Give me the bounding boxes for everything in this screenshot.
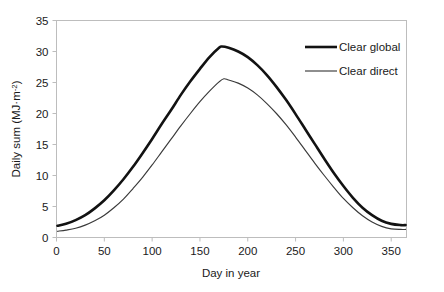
plot-frame [57, 21, 407, 238]
svg-text:Day in year: Day in year [202, 267, 260, 279]
x-tick-label: 350 [382, 245, 401, 257]
x-tick-label: 250 [286, 245, 305, 257]
series-line-clear-direct [57, 79, 405, 232]
y-tick-label: 35 [36, 15, 49, 27]
x-axis-tick-labels: 050100150200250300350 [53, 245, 400, 257]
x-tick-label: 300 [334, 245, 353, 257]
y-axis-title: Daily sum (MJ·m-2) [10, 80, 23, 177]
y-axis-tickmarks [53, 21, 57, 238]
y-tick-label: 25 [36, 77, 49, 89]
x-axis-title: Day in year [202, 267, 260, 279]
x-tick-label: 150 [190, 245, 209, 257]
y-tick-label: 15 [36, 139, 49, 151]
y-tick-label: 20 [36, 108, 49, 120]
x-tick-label: 100 [143, 245, 162, 257]
svg-text:Daily sum (MJ·m-2): Daily sum (MJ·m-2) [10, 80, 23, 177]
y-tick-label: 5 [42, 201, 48, 213]
y-tick-label: 0 [42, 232, 48, 244]
x-axis-tickmarks [57, 238, 392, 242]
x-tick-label: 200 [238, 245, 257, 257]
x-tick-label: 50 [98, 245, 111, 257]
y-tick-label: 30 [36, 46, 49, 58]
daily-sum-line-chart: 05101520253035 050100150200250300350 Dai… [0, 0, 444, 292]
chart-container: 05101520253035 050100150200250300350 Dai… [0, 0, 444, 292]
legend-label-clear-direct: Clear direct [339, 65, 399, 77]
chart-legend: Clear globalClear direct [305, 41, 400, 77]
legend-label-clear-global: Clear global [339, 41, 400, 53]
y-tick-label: 10 [36, 170, 49, 182]
y-axis-tick-labels: 05101520253035 [36, 15, 49, 244]
x-tick-label: 0 [53, 245, 59, 257]
